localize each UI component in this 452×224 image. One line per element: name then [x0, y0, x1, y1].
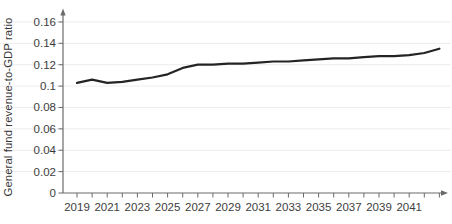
- y-tick-label: 0.04: [34, 144, 57, 156]
- x-axis-arrow-icon: [441, 190, 448, 195]
- x-tick-label: 2031: [245, 201, 271, 213]
- x-tick-label: 2025: [155, 201, 181, 213]
- x-tick-label: 2023: [125, 201, 151, 213]
- axis-layer: [60, 9, 448, 196]
- y-tick-label: 0.16: [34, 16, 56, 28]
- data-series-layer: [77, 49, 439, 83]
- y-tick-label: 0.1: [40, 80, 56, 92]
- y-tick-label: 0.08: [34, 101, 56, 113]
- x-tick-label: 2039: [366, 201, 392, 213]
- y-tick-label: 0: [50, 187, 56, 199]
- line-chart: 00.020.040.060.080.10.120.140.1620192021…: [0, 0, 452, 224]
- x-tick-label: 2037: [336, 201, 362, 213]
- y-axis-arrow-icon: [60, 9, 65, 16]
- x-tick-label: 2033: [276, 201, 302, 213]
- chart-figure: 00.020.040.060.080.10.120.140.1620192021…: [0, 0, 452, 224]
- x-tick-label: 2021: [94, 201, 120, 213]
- y-tick-label: 0.12: [34, 59, 56, 71]
- y-tick-label: 0.14: [34, 37, 57, 49]
- gridline-layer: [0, 22, 451, 172]
- x-tick-label: 2035: [306, 201, 332, 213]
- y-tick-label: 0.02: [34, 166, 56, 178]
- tick-label-layer: 00.020.040.060.080.10.120.140.1620192021…: [34, 16, 422, 213]
- x-tick-label: 2029: [215, 201, 241, 213]
- y-axis-title: General fund revenue-to-GDP ratio: [2, 18, 14, 197]
- x-tick-label: 2027: [185, 201, 211, 213]
- y-tick-label: 0.06: [34, 123, 56, 135]
- revenue-ratio-line: [77, 49, 439, 83]
- x-tick-label: 2041: [396, 201, 422, 213]
- x-tick-label: 2019: [64, 201, 90, 213]
